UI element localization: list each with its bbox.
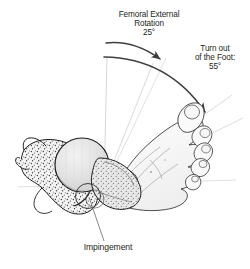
femoral-external-rotation-arc (106, 43, 160, 59)
foot-toe-5 (186, 174, 201, 189)
femoral-external-rotation-label: Femoral External Rotation 25° (104, 10, 194, 38)
anatomical-illustration (0, 0, 250, 269)
foot-turnout-label: Turn out of the Foot: 55° (182, 44, 248, 72)
impingement-label: Impingement (52, 243, 164, 253)
diagram-canvas: Femoral External Rotation 25° Turn out o… (0, 0, 250, 269)
foot-toe-4 (191, 159, 209, 177)
